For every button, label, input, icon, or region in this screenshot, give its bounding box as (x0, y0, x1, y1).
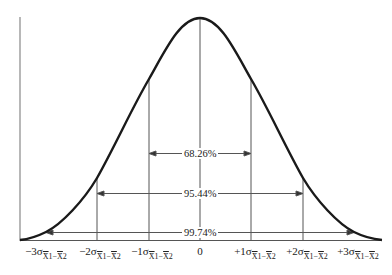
tick-minus-1sigma: −1σX̄1−X̄2 (131, 244, 173, 260)
sigma-lines (97, 18, 303, 240)
tick-zero: 0 (197, 244, 203, 258)
interval-label-3sigma: 99.74% (182, 227, 218, 238)
tick-plus-3sigma: +3σX̄1−X̄2 (337, 244, 379, 260)
distribution-curve (20, 18, 382, 240)
interval-label-1sigma: 68.26% (182, 148, 218, 159)
tick-plus-1sigma: +1σX̄1−X̄2 (234, 244, 276, 260)
interval-label-2sigma: 95.44% (182, 188, 218, 199)
tick-minus-2sigma: −2σX̄1−X̄2 (79, 244, 121, 260)
tick-plus-2sigma: +2σX̄1−X̄2 (286, 244, 328, 260)
tick-minus-3sigma: −3σX̄1−X̄2 (25, 244, 67, 260)
